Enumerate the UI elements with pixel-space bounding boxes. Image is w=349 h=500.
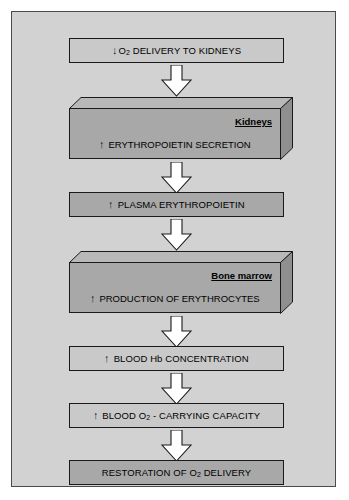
connector-arrow-5 [161, 373, 192, 405]
arrow-down-icon [161, 373, 192, 405]
diagram-canvas: ↓O2 DELIVERY TO KIDNEYS Kidneys ↑ ERYTHR… [11, 11, 336, 487]
slab-side-face [280, 251, 293, 314]
trend-up-icon: ↑ [91, 292, 95, 304]
flow-step-blood-hb-concentration: ↑ BLOOD Hb CONCENTRATION [69, 346, 284, 371]
flow-step-production-of-erythrocytes: Bone marrow ↑ PRODUCTION OF ERYTHROCYTES [69, 251, 293, 314]
organ-label: Kidneys [235, 116, 272, 127]
slab-front-face: Bone marrow ↑ PRODUCTION OF ERYTHROCYTES [69, 262, 281, 313]
arrow-down-icon [161, 65, 192, 97]
flow-step-label: ↑ ERYTHROPOIETIN SECRETION [70, 138, 280, 150]
flow-step-blood-o2-carrying-capacity: ↑ BLOOD O2 - CARRYING CAPACITY [69, 403, 284, 428]
trend-up-icon: ↑ [93, 410, 97, 421]
connector-arrow-3 [161, 219, 192, 251]
organ-label: Bone marrow [211, 270, 272, 281]
arrow-down-icon [161, 162, 192, 194]
trend-down-icon: ↓ [112, 45, 116, 56]
connector-arrow-1 [161, 65, 192, 97]
connector-arrow-2 [161, 162, 192, 194]
slab-front-face: Kidneys ↑ ERYTHROPOIETIN SECRETION [69, 108, 281, 159]
flow-step-label: ↑ PRODUCTION OF ERYTHROCYTES [70, 292, 280, 304]
flow-step-erythropoietin-secretion: Kidneys ↑ ERYTHROPOIETIN SECRETION [69, 97, 293, 160]
flow-step-label: ↑ BLOOD O2 - CARRYING CAPACITY [93, 410, 260, 421]
flow-step-o2-delivery-to-kidneys: ↓O2 DELIVERY TO KIDNEYS [69, 38, 284, 63]
arrow-down-icon [161, 430, 192, 462]
arrow-down-icon [161, 219, 192, 251]
arrow-down-icon [161, 316, 192, 348]
flow-step-label: ↓O2 DELIVERY TO KIDNEYS [112, 45, 241, 56]
trend-up-icon: ↑ [109, 199, 113, 210]
trend-up-icon: ↑ [105, 353, 109, 364]
flow-step-restoration-of-o2-delivery: RESTORATION OF O2 DELIVERY [69, 460, 284, 485]
flow-step-plasma-erythropoietin: ↑ PLASMA ERYTHROPOIETIN [69, 192, 284, 217]
connector-arrow-4 [161, 316, 192, 348]
slab-side-face [280, 97, 293, 160]
flow-step-label: RESTORATION OF O2 DELIVERY [102, 468, 252, 478]
connector-arrow-6 [161, 430, 192, 462]
trend-up-icon: ↑ [100, 138, 104, 150]
flow-step-label: ↑ PLASMA ERYTHROPOIETIN [108, 199, 244, 210]
flow-step-label: ↑ BLOOD Hb CONCENTRATION [104, 353, 248, 364]
